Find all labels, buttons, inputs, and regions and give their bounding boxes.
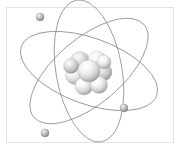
nucleon xyxy=(78,60,100,82)
atom-figure xyxy=(0,0,182,153)
nucleus xyxy=(64,51,113,95)
atom-illustration-root xyxy=(0,0,182,153)
atom-diagram-svg xyxy=(0,0,182,153)
electron-top-left xyxy=(36,13,44,21)
electron-bottom-left xyxy=(41,129,49,137)
nucleon xyxy=(64,59,79,74)
electron-right xyxy=(120,104,128,112)
